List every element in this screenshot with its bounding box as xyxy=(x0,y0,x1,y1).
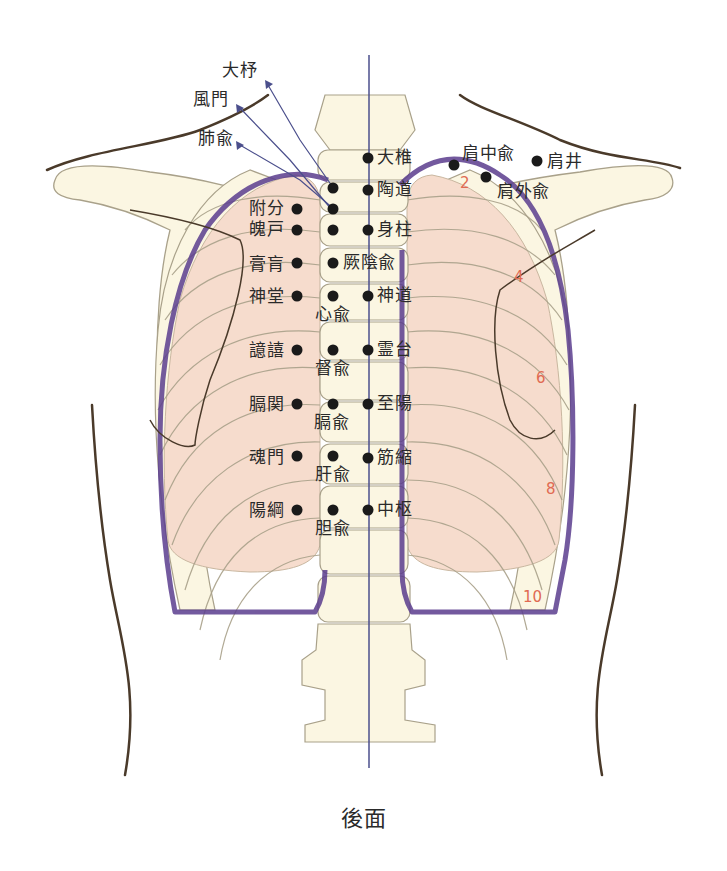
label-kinshuku: 筋縮 xyxy=(377,449,412,466)
label-ketsuinyu: 厥陰兪 xyxy=(343,254,396,271)
point-shiyo[interactable] xyxy=(363,399,374,410)
point-kinshuku[interactable] xyxy=(363,453,374,464)
label-kanyu: 肝兪 xyxy=(315,466,350,483)
point-kenchuyu[interactable] xyxy=(449,160,460,171)
arrowheads xyxy=(236,80,273,150)
anatomy-illustration xyxy=(0,0,727,871)
label-daitsui: 大椎 xyxy=(377,149,412,166)
rib-number-6: 6 xyxy=(536,371,546,386)
point-shinyu[interactable] xyxy=(328,291,339,302)
point-tokuyu[interactable] xyxy=(328,345,339,356)
point-kensei[interactable] xyxy=(532,156,543,167)
label-hakko: 魄戸 xyxy=(249,221,284,238)
point-daitsui[interactable] xyxy=(363,153,374,164)
point-shindo2[interactable] xyxy=(292,291,303,302)
point-kouko[interactable] xyxy=(292,258,303,269)
point-iki[interactable] xyxy=(292,345,303,356)
point-kakukan[interactable] xyxy=(292,399,303,410)
label-iki: 譩譆 xyxy=(249,342,284,359)
rib-number-10: 10 xyxy=(523,590,542,605)
label-kenchuyu: 肩中兪 xyxy=(462,145,515,162)
point-fumon[interactable] xyxy=(328,204,339,215)
label-tondo: 陶道 xyxy=(377,181,412,198)
label-kakukan: 膈関 xyxy=(249,396,284,413)
label-kakuyu: 膈兪 xyxy=(314,414,349,431)
label-kengaiyu: 肩外兪 xyxy=(497,183,550,200)
label-fubun: 附分 xyxy=(249,200,284,217)
point-yoko[interactable] xyxy=(292,505,303,516)
label-daijo: 大杼 xyxy=(222,62,257,79)
point-fubun[interactable] xyxy=(292,204,303,215)
label-shiyo: 至陽 xyxy=(377,395,412,412)
label-yoko: 陽綱 xyxy=(249,502,284,519)
label-shinyu: 心兪 xyxy=(315,306,350,323)
label-haiyu: 肺兪 xyxy=(198,130,233,147)
label-chusu: 中枢 xyxy=(377,501,412,518)
point-ketsuinyu[interactable] xyxy=(328,258,339,269)
label-tanyu: 胆兪 xyxy=(315,520,350,537)
label-fumon: 風門 xyxy=(193,91,228,108)
label-shinchu: 身柱 xyxy=(377,221,412,238)
label-kensei: 肩井 xyxy=(547,153,582,170)
point-hakko[interactable] xyxy=(292,225,303,236)
rib-number-8: 8 xyxy=(546,482,556,497)
back-acupoint-diagram: 大杼 風門 肺兪 大椎 陶道 身柱 神道 霊台 至陽 筋縮 中枢 厥陰兪 心兪 … xyxy=(0,0,727,871)
point-tanyu[interactable] xyxy=(328,505,339,516)
point-shindo[interactable] xyxy=(363,291,374,302)
point-shinchu[interactable] xyxy=(363,225,374,236)
label-shindo: 神道 xyxy=(377,287,412,304)
point-haiyu[interactable] xyxy=(328,225,339,236)
label-kouko: 膏肓 xyxy=(249,256,284,273)
point-tondo[interactable] xyxy=(363,185,374,196)
label-shindo2: 神堂 xyxy=(249,288,284,305)
point-chusu[interactable] xyxy=(363,505,374,516)
point-kanyu[interactable] xyxy=(328,451,339,462)
point-reidai[interactable] xyxy=(363,345,374,356)
figure-caption: 後面 xyxy=(0,800,727,832)
rib-number-4: 4 xyxy=(514,270,524,285)
point-konmon[interactable] xyxy=(292,451,303,462)
point-kengaiyu[interactable] xyxy=(481,172,492,183)
point-daijo[interactable] xyxy=(328,183,339,194)
point-kakuyu[interactable] xyxy=(328,399,339,410)
rib-number-2: 2 xyxy=(460,176,470,191)
label-tokuyu: 督兪 xyxy=(315,360,350,377)
label-reidai: 霊台 xyxy=(377,341,412,358)
label-konmon: 魂門 xyxy=(249,449,284,466)
